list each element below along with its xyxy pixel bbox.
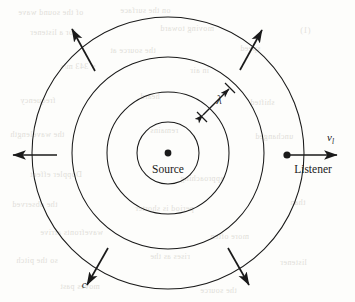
source-point xyxy=(165,150,172,157)
wavefront-arrow-upper-left xyxy=(0,0,94,229)
wavefront-arrow-upper-right-shaft xyxy=(240,30,262,70)
speed-of-sound-label: c xyxy=(82,279,87,290)
wavelength-label: λ xyxy=(215,93,221,107)
wavefront-arrow-lower-right-shaft xyxy=(228,248,249,285)
wavefront-arrow-upper-left-shaft xyxy=(72,29,95,71)
wavefront-arrow-lower-left-shaft xyxy=(87,248,108,285)
velocity-subscript: l xyxy=(332,137,334,146)
source-label: Source xyxy=(152,163,184,175)
doppler-wavefront-diagram: Source c λ Listener vl xyxy=(0,0,355,302)
wavelength-tick-inner xyxy=(197,112,207,122)
listener-label: Listener xyxy=(294,163,332,175)
listener-velocity-label: vl xyxy=(327,131,334,146)
